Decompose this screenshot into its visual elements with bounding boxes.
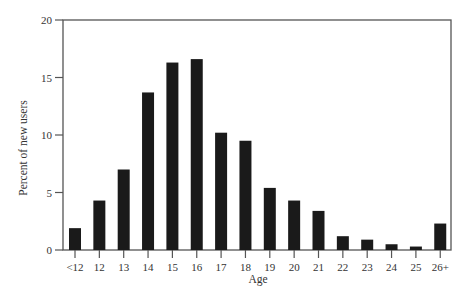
bars — [69, 59, 446, 250]
x-tick-label: 12 — [94, 261, 105, 273]
bar-14 — [142, 92, 154, 250]
bar-26+ — [434, 224, 446, 250]
x-tick-label: <12 — [66, 261, 83, 273]
y-tick-label: 20 — [41, 14, 53, 26]
x-tick-label: 21 — [313, 261, 324, 273]
x-tick-label: 20 — [289, 261, 301, 273]
x-tick-label: 13 — [118, 261, 130, 273]
x-tick-label: 15 — [167, 261, 179, 273]
bar-16 — [191, 59, 203, 250]
x-tick-label: 24 — [386, 261, 398, 273]
bar-18 — [239, 141, 251, 250]
bar-13 — [118, 170, 130, 251]
bar-23 — [361, 240, 373, 250]
y-axis-title: Percent of new users — [17, 100, 29, 196]
bar-24 — [386, 244, 398, 250]
x-tick-label: 25 — [410, 261, 422, 273]
y-tick-label: 10 — [41, 129, 53, 141]
bar-22 — [337, 236, 349, 250]
y-tick-label: 0 — [47, 244, 53, 256]
bar-20 — [288, 201, 300, 250]
x-tick-label: 16 — [191, 261, 203, 273]
x-tick-label: 14 — [143, 261, 155, 273]
bar-15 — [166, 63, 178, 250]
y-axis: 05101520 — [41, 14, 63, 256]
bar-19 — [264, 188, 276, 250]
x-tick-label: 18 — [240, 261, 252, 273]
x-axis: <12121314151617181920212223242526+ — [66, 250, 448, 273]
x-axis-title: Age — [248, 273, 267, 286]
bar-17 — [215, 133, 227, 250]
y-tick-label: 5 — [47, 187, 53, 199]
bar-<12 — [69, 228, 81, 250]
bar-chart: 05101520 <121213141516171819202122232425… — [0, 0, 472, 303]
x-tick-label: 19 — [264, 261, 276, 273]
y-tick-label: 15 — [41, 72, 53, 84]
x-tick-label: 26+ — [432, 261, 449, 273]
x-tick-label: 23 — [362, 261, 374, 273]
x-tick-label: 22 — [337, 261, 348, 273]
bar-12 — [93, 201, 105, 250]
bar-21 — [313, 211, 325, 250]
bar-25 — [410, 247, 422, 250]
x-tick-label: 17 — [216, 261, 228, 273]
